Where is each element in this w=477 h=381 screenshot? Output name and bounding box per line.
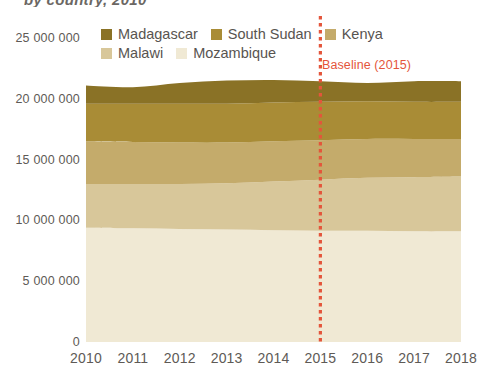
x-axis-tick: 2017 bbox=[398, 350, 430, 366]
y-axis-tick: 15 000 000 bbox=[15, 153, 80, 167]
x-axis: 201020112012201320142015201620172018 bbox=[86, 350, 461, 372]
x-axis-tick: 2010 bbox=[70, 350, 102, 366]
area-series-mozambique bbox=[86, 228, 461, 342]
y-axis: 25 000 00020 000 00015 000 00010 000 000… bbox=[0, 38, 80, 342]
y-axis-tick: 10 000 000 bbox=[15, 213, 80, 227]
y-axis-tick: 0 bbox=[73, 335, 80, 349]
x-axis-tick: 2014 bbox=[258, 350, 290, 366]
x-axis-tick: 2016 bbox=[351, 350, 383, 366]
area-series-malawi bbox=[86, 177, 461, 232]
y-axis-tick: 5 000 000 bbox=[23, 274, 80, 288]
x-axis-tick: 2015 bbox=[304, 350, 336, 366]
y-axis-tick: 25 000 000 bbox=[15, 31, 80, 45]
area-series-madagascar bbox=[86, 80, 461, 104]
x-axis-tick: 2018 bbox=[445, 350, 477, 366]
chart-title-cropped: by country, 2010 bbox=[24, 0, 254, 7]
baseline-annotation-label: Baseline (2015) bbox=[322, 58, 411, 72]
x-axis-tick: 2011 bbox=[117, 350, 148, 366]
y-axis-tick: 20 000 000 bbox=[15, 92, 80, 106]
x-axis-tick: 2012 bbox=[164, 350, 196, 366]
area-series-south-sudan bbox=[86, 101, 461, 142]
area-series-kenya bbox=[86, 139, 461, 184]
x-axis-tick: 2013 bbox=[211, 350, 243, 366]
